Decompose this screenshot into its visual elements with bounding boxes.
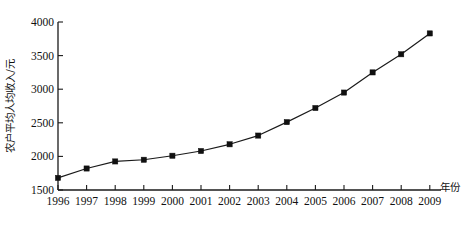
- data-point-marker: [284, 120, 289, 125]
- y-axis-tick-labels: 4000 3500 3000 2500 2000 1500: [31, 16, 54, 196]
- x-tick-label: 2009: [418, 195, 441, 207]
- data-point-marker: [198, 148, 203, 153]
- data-point-marker: [341, 90, 346, 95]
- x-tick-label: 2002: [218, 195, 241, 207]
- x-tick-label: 1998: [104, 195, 127, 207]
- x-axis-ticks: [58, 185, 430, 190]
- line-chart-plot: 4000 3500 3000 2500 2000 1500 1996: [0, 0, 475, 225]
- x-tick-label: 1999: [132, 195, 155, 207]
- x-tick-label: 1997: [75, 195, 98, 207]
- data-point-marker: [256, 133, 261, 138]
- x-axis-title: 年份: [440, 181, 461, 193]
- data-point-marker: [313, 105, 318, 110]
- x-tick-label: 2008: [390, 195, 413, 207]
- y-tick-label: 3000: [31, 83, 54, 95]
- x-tick-label: 1996: [47, 195, 70, 207]
- x-tick-label: 2007: [361, 195, 384, 207]
- data-point-marker: [113, 159, 118, 164]
- data-point-marker: [399, 52, 404, 57]
- x-tick-label: 2003: [247, 195, 270, 207]
- x-tick-label: 2005: [304, 195, 327, 207]
- x-axis-tick-labels: 1996 1997 1998 1999 2000 2001 2002 2003 …: [47, 195, 442, 207]
- data-point-marker: [84, 166, 89, 171]
- data-point-marker: [427, 31, 432, 36]
- y-tick-label: 3500: [31, 50, 54, 62]
- chart-container: 4000 3500 3000 2500 2000 1500 1996: [0, 0, 475, 225]
- y-axis-title: 农户平均人均收入/元: [4, 58, 16, 153]
- x-tick-label: 2004: [275, 195, 298, 207]
- data-point-marker: [370, 70, 375, 75]
- y-axis-ticks: [58, 22, 63, 190]
- y-tick-label: 2500: [31, 117, 54, 129]
- y-tick-label: 2000: [31, 150, 54, 162]
- data-point-marker: [55, 175, 60, 180]
- x-tick-label: 2001: [190, 195, 213, 207]
- data-point-marker: [141, 157, 146, 162]
- data-point-marker: [170, 153, 175, 158]
- y-tick-label: 4000: [31, 16, 54, 28]
- x-tick-label: 2006: [333, 195, 356, 207]
- series-markers: [55, 31, 432, 181]
- data-point-marker: [227, 142, 232, 147]
- series-line-path: [58, 33, 430, 177]
- x-tick-label: 2000: [161, 195, 184, 207]
